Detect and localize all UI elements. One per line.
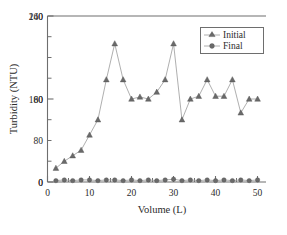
data-point-triangle-marker (137, 94, 143, 99)
chart-figure: 0 80 160 240 160 80 0 0 10 20 (0, 0, 287, 235)
y-tick-label-80-low: 80 (34, 136, 44, 146)
data-point-triangle-marker (171, 41, 177, 46)
data-point-circle-marker (188, 178, 192, 182)
data-point-circle-marker (71, 178, 75, 182)
data-point-circle-marker (54, 178, 58, 182)
data-point-circle-marker (155, 178, 159, 182)
data-point-triangle-marker (230, 77, 236, 82)
x-tick-label-30: 30 (169, 188, 179, 198)
data-point-triangle-marker (204, 77, 210, 82)
data-point-circle-marker (138, 178, 142, 182)
legend-marker-final-circle-icon (210, 44, 215, 49)
data-point-triangle-marker (162, 77, 168, 82)
data-point-circle-marker (62, 178, 66, 182)
data-point-circle-marker (171, 177, 175, 181)
data-point-triangle-marker (112, 41, 118, 46)
chart-legend[interactable]: Initial Final (201, 28, 264, 54)
data-point-circle-marker (96, 178, 100, 182)
data-point-triangle-marker (95, 117, 101, 122)
data-point-circle-marker (121, 178, 125, 182)
legend-label-final[interactable]: Final (223, 41, 243, 51)
data-point-circle-marker (247, 178, 251, 182)
x-tick-label-20: 20 (127, 188, 137, 198)
series-layer (53, 41, 260, 183)
data-point-circle-marker (113, 178, 117, 182)
data-point-triangle-marker (70, 153, 76, 158)
series-line-initial (56, 44, 258, 169)
data-point-circle-marker (222, 178, 226, 182)
y-tick-label-160-mid: 160 (29, 95, 44, 105)
x-axis-tick-labels: 0 10 20 30 40 50 (45, 188, 262, 198)
data-point-triangle-marker (120, 77, 126, 82)
data-point-circle-marker (230, 178, 234, 182)
series-initial (53, 41, 260, 171)
data-point-circle-marker (180, 178, 184, 182)
data-point-triangle-marker (238, 110, 244, 115)
data-point-triangle-marker (196, 93, 202, 98)
x-tick-label-0: 0 (45, 188, 50, 198)
legend-label-initial[interactable]: Initial (223, 30, 246, 40)
x-axis-title: Volume (L) (138, 204, 187, 216)
x-tick-label-50: 50 (253, 188, 263, 198)
data-point-circle-marker (213, 178, 217, 182)
data-point-circle-marker (79, 178, 83, 182)
data-point-circle-marker (255, 178, 259, 182)
data-point-circle-marker (197, 178, 201, 182)
y-axis-ticks (48, 16, 54, 182)
data-point-circle-marker (104, 178, 108, 182)
data-point-circle-marker (129, 178, 133, 182)
data-point-triangle-marker (53, 165, 59, 170)
data-point-triangle-marker (154, 89, 160, 94)
data-point-circle-marker (239, 178, 243, 182)
data-point-triangle-marker (78, 147, 84, 152)
data-point-triangle-marker (61, 158, 67, 163)
x-tick-label-40: 40 (211, 188, 221, 198)
y-axis-title: Turbidity (NTU) (8, 63, 20, 134)
data-point-circle-marker (87, 178, 91, 182)
data-point-triangle-marker (87, 132, 93, 137)
data-point-circle-marker (205, 178, 209, 182)
y-tick-label-zero: 0 (38, 178, 43, 188)
data-point-triangle-marker (179, 117, 185, 122)
data-point-triangle-marker (103, 77, 109, 82)
x-tick-label-10: 10 (85, 188, 95, 198)
data-point-circle-marker (163, 178, 167, 182)
y-tick-label-240: 240 (29, 12, 44, 22)
turbidity-line-chart: 0 80 160 240 160 80 0 0 10 20 (0, 0, 287, 235)
data-point-circle-marker (146, 178, 150, 182)
